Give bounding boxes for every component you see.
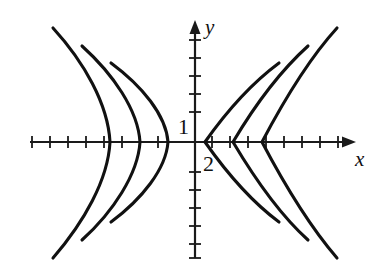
graph-canvas: 1 2 x y <box>0 0 383 275</box>
y-axis-label: y <box>203 15 215 39</box>
figure-container: 1 2 x y <box>0 0 383 275</box>
x-axis-arrow-icon <box>342 137 356 148</box>
tick-label-one: 1 <box>178 114 189 139</box>
tick-label-two: 2 <box>203 151 214 176</box>
y-axis-arrow-icon <box>190 20 201 34</box>
x-axis-label: x <box>354 147 365 171</box>
